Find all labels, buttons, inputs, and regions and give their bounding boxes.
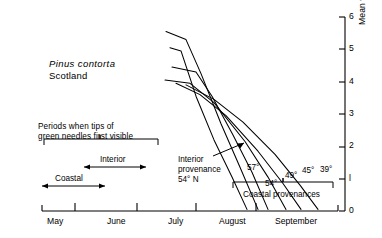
interior-provenance-label-line1: Interior bbox=[178, 155, 203, 164]
y-tick-label-4: 4 bbox=[349, 76, 354, 86]
latitude-label-39: 39° bbox=[320, 165, 332, 174]
y-tick-label-3: 3 bbox=[349, 108, 354, 118]
chart-canvas bbox=[0, 0, 382, 238]
curve-54-n-interior bbox=[170, 48, 247, 210]
y-axis-title: Mean weekly increase in needle length ( … bbox=[357, 0, 367, 25]
latitude-label-45: 45° bbox=[302, 166, 314, 175]
coastal-arrow-head-right bbox=[99, 183, 105, 188]
periods-caption-line1: Periods when tips of bbox=[38, 122, 114, 131]
coastal-period-label: Coastal bbox=[55, 174, 83, 183]
y-tick-label-5: 5 bbox=[349, 43, 354, 53]
y-tick-label-2: 2 bbox=[349, 140, 354, 150]
month-label-july: July bbox=[168, 216, 183, 226]
y-tick-label-6: 6 bbox=[349, 11, 354, 21]
y-tick-label-1: l bbox=[349, 173, 351, 183]
y-tick-label-0: 0 bbox=[349, 205, 354, 215]
latitude-label-54: 54° bbox=[265, 179, 277, 188]
coastal-provenances-label: Coastal provenances bbox=[243, 190, 320, 199]
latitude-label-57: 57° bbox=[247, 163, 259, 172]
interior-arrow-head-left bbox=[84, 164, 90, 169]
interior-provenance-label-line3: 54° N bbox=[178, 175, 199, 184]
species-name: Pinus contorta bbox=[49, 58, 115, 69]
interior-provenance-label-line2: provenance bbox=[178, 165, 221, 174]
periods-caption-line2: green needles first visible bbox=[38, 132, 133, 141]
month-label-august: August bbox=[219, 216, 246, 226]
interior-period-label: Interior bbox=[100, 155, 125, 164]
coastal-arrow-head-left bbox=[42, 183, 48, 188]
month-label-june: June bbox=[107, 216, 126, 226]
latitude-label-49: 49° bbox=[285, 171, 297, 180]
month-label-september: September bbox=[275, 216, 317, 226]
month-label-may: May bbox=[47, 216, 63, 226]
interior-provenance-leader-group bbox=[213, 143, 244, 156]
interior-arrow-head-right bbox=[140, 164, 146, 169]
figure-root: Pinus contorta Scotland Periods when tip… bbox=[0, 0, 382, 238]
location-name: Scotland bbox=[49, 70, 88, 81]
